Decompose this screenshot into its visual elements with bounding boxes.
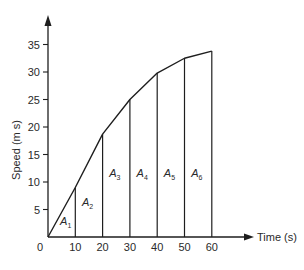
x-tick-label: 30	[124, 241, 136, 253]
y-tick-label: 35	[28, 39, 40, 51]
y-axis-label: Speed (m s)	[10, 120, 22, 180]
area-label-a3: A3	[108, 167, 120, 181]
y-tick-label: 30	[28, 66, 40, 78]
y-tick-label: 20	[28, 121, 40, 133]
area-label-a2: A2	[81, 196, 93, 210]
vertical-strip-lines	[75, 51, 212, 237]
x-tick-label: 40	[151, 241, 163, 253]
x-tick-label: 10	[69, 241, 81, 253]
area-label-a4: A4	[136, 167, 148, 181]
x-tick-label: 50	[178, 241, 190, 253]
area-label-a5: A5	[163, 167, 175, 181]
x-axis-arrow-icon	[244, 234, 254, 241]
axes	[45, 15, 255, 241]
origin-label: 0	[37, 241, 43, 253]
x-tick-label: 60	[206, 241, 218, 253]
y-tick-label: 25	[28, 94, 40, 106]
x-axis-label: Time (s)	[257, 231, 297, 243]
y-tick-label: 15	[28, 149, 40, 161]
area-label-a1: A1	[59, 215, 71, 229]
y-axis-arrow-icon	[45, 15, 52, 26]
y-tick-label: 5	[34, 204, 40, 216]
speed-time-chart: 5101520253035102030405060 A1A2A3A4A5A6 0…	[0, 0, 304, 270]
y-tick-label: 10	[28, 176, 40, 188]
x-tick-label: 20	[96, 241, 108, 253]
area-label-a6: A6	[190, 167, 202, 181]
